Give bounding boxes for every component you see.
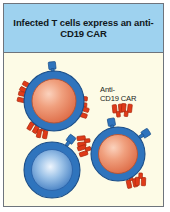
figure-header: Infected T cells express an anti-CD19 CA…: [4, 4, 163, 53]
car-annotation-label: Anti- CD19 CAR: [100, 86, 136, 103]
figure-title: Infected T cells express an anti-CD19 CA…: [4, 17, 163, 40]
cell-nucleus: [32, 79, 76, 123]
cell-infected-t-cell-top-left: [17, 61, 89, 138]
cell-uninfected-t-cell-bottom-left: [24, 134, 80, 198]
cell-infected-t-cell-right: [77, 103, 151, 188]
figure-illustration: [4, 53, 163, 206]
figure-panel: Infected T cells express an anti-CD19 CA…: [3, 3, 164, 207]
cell-nucleus: [32, 150, 73, 191]
cell-nucleus: [99, 135, 138, 174]
